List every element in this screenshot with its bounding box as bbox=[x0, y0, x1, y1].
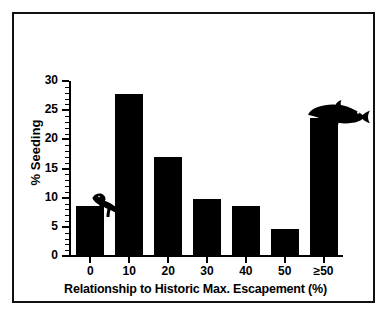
fish-icon bbox=[307, 98, 371, 128]
y-minor-tick bbox=[65, 221, 69, 222]
y-minor-tick bbox=[65, 163, 69, 164]
y-minor-tick bbox=[65, 244, 69, 245]
y-tick-30 bbox=[62, 80, 69, 82]
y-tick-0 bbox=[62, 255, 69, 257]
y-minor-tick bbox=[65, 157, 69, 158]
bar-10 bbox=[115, 94, 143, 256]
y-minor-tick bbox=[65, 192, 69, 193]
x-tick-0 bbox=[89, 257, 91, 263]
y-minor-tick bbox=[65, 250, 69, 251]
y-minor-tick bbox=[65, 104, 69, 105]
y-minor-tick bbox=[65, 87, 69, 88]
bar-50 bbox=[271, 229, 299, 256]
x-tick-label-20: 20 bbox=[146, 265, 190, 277]
y-minor-tick bbox=[65, 204, 69, 205]
x-tick-40 bbox=[245, 257, 247, 263]
y-minor-tick bbox=[65, 151, 69, 152]
bar-40 bbox=[232, 206, 260, 256]
y-tick-5 bbox=[62, 226, 69, 228]
x-tick-≥50 bbox=[323, 257, 325, 263]
y-tick-label-5: 5 bbox=[18, 220, 58, 232]
y-minor-tick bbox=[65, 174, 69, 175]
y-minor-tick bbox=[65, 134, 69, 135]
y-minor-tick bbox=[65, 116, 69, 117]
y-tick-10 bbox=[62, 197, 69, 199]
x-tick-label-40: 40 bbox=[224, 265, 268, 277]
x-tick-label-10: 10 bbox=[107, 265, 151, 277]
x-tick-label-0: 0 bbox=[68, 265, 112, 277]
chart-plot-area: 051015202530 01020304050≥50 Relationship… bbox=[14, 14, 377, 305]
bar-20 bbox=[154, 157, 182, 256]
y-tick-20 bbox=[62, 138, 69, 140]
x-tick-20 bbox=[167, 257, 169, 263]
y-tick-25 bbox=[62, 109, 69, 111]
y-minor-tick bbox=[65, 93, 69, 94]
x-axis-title: Relationship to Historic Max. Escapement… bbox=[24, 282, 367, 296]
x-tick-30 bbox=[206, 257, 208, 263]
x-tick-label-30: 30 bbox=[185, 265, 229, 277]
y-minor-tick bbox=[65, 186, 69, 187]
x-tick-label-≥50: ≥50 bbox=[302, 265, 346, 277]
y-minor-tick bbox=[65, 128, 69, 129]
bar-≥50 bbox=[310, 118, 338, 256]
x-tick-10 bbox=[128, 257, 130, 263]
y-axis-line bbox=[69, 81, 71, 257]
y-minor-tick bbox=[65, 122, 69, 123]
y-tick-label-0: 0 bbox=[18, 249, 58, 261]
figure-frame: 051015202530 01020304050≥50 Relationship… bbox=[12, 12, 375, 303]
bar-30 bbox=[193, 199, 221, 256]
y-minor-tick bbox=[65, 99, 69, 100]
y-tick-15 bbox=[62, 168, 69, 170]
y-minor-tick bbox=[65, 215, 69, 216]
y-tick-label-30: 30 bbox=[18, 74, 58, 86]
x-tick-50 bbox=[284, 257, 286, 263]
y-minor-tick bbox=[65, 209, 69, 210]
y-minor-tick bbox=[65, 233, 69, 234]
y-minor-tick bbox=[65, 239, 69, 240]
x-tick-label-50: 50 bbox=[263, 265, 307, 277]
y-minor-tick bbox=[65, 145, 69, 146]
y-axis-title: % Seeding bbox=[28, 93, 43, 213]
y-minor-tick bbox=[65, 180, 69, 181]
dinosaur-icon bbox=[87, 192, 137, 218]
